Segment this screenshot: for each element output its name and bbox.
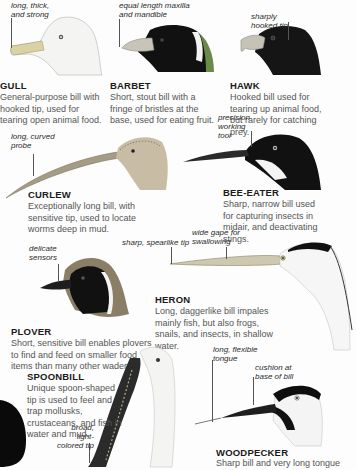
plover-head-illustration — [35, 252, 135, 332]
woodpecker-annotation-cushion: cushion at base of bill — [255, 363, 305, 381]
curlew-annotation: long, curved probe — [11, 132, 61, 150]
curlew-name: CURLEW — [28, 189, 71, 200]
woodpecker-annotation-tongue: long, flexible tongue — [213, 345, 263, 363]
gull-name: GULL — [0, 80, 27, 91]
spoonbill-name: SPOONBILL — [27, 371, 84, 382]
heron-annotation-tip: sharp, spearlike tip — [122, 238, 202, 247]
gull-annotation: long, thick, and strong — [11, 1, 56, 19]
woodpecker-description: Sharp bill and very long tongue — [216, 458, 336, 470]
barbet-annotation: equal length maxilla and mandible — [119, 1, 199, 19]
gull-description: General-purpose bill with hooked tip, us… — [0, 92, 106, 127]
spoonbill-description: Unique spoon-shaped tip is used to feel … — [27, 383, 122, 441]
plover-name: PLOVER — [11, 326, 51, 337]
barbet-name: BARBET — [110, 80, 151, 91]
hawk-annotation: sharply hooked tip — [251, 12, 291, 30]
hawk-name: HAWK — [230, 80, 260, 91]
heron-annotation-gape: wide gape for swallowing — [192, 228, 252, 246]
bee-eater-name: BEE-EATER — [223, 187, 279, 198]
woodpecker-name: WOODPECKER — [216, 447, 288, 458]
heron-name: HERON — [155, 294, 190, 305]
curlew-description: Exceptionally long bill, with sensitive … — [28, 201, 153, 236]
plover-annotation: delicate sensors — [29, 244, 65, 262]
bee-eater-annotation: precision working tool — [218, 113, 258, 140]
